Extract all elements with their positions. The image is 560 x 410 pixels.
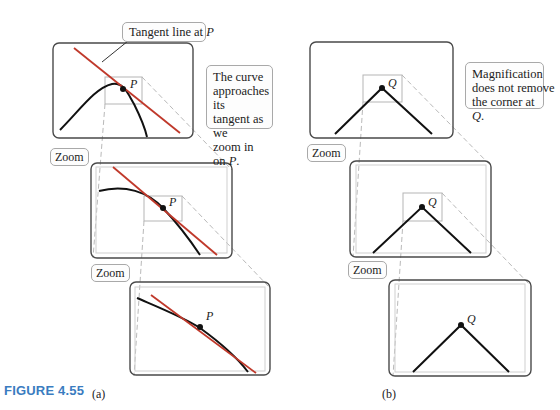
callout-line: approaches its	[213, 84, 266, 112]
zoom-level-3-frame: Q	[389, 280, 531, 376]
zoom-guide-line	[93, 104, 105, 258]
leader-line	[102, 41, 128, 62]
zoom-level-3-frame: P	[130, 282, 270, 375]
zoom-level-1-frame: P	[53, 41, 193, 138]
zoom-level-2-frame: Q	[350, 161, 491, 257]
point-p-dot	[120, 86, 126, 92]
corner-curve	[373, 207, 471, 253]
tangent-label-point: P	[206, 25, 214, 39]
callout-line: tangent as we	[213, 112, 266, 140]
callout-suffix: .	[481, 109, 484, 123]
tangent-line-label: Tangent line at P	[122, 22, 206, 42]
zoom-level-1-frame: Q	[310, 42, 453, 138]
callout-line: The curve	[213, 70, 266, 84]
point-q-label: Q	[428, 195, 437, 209]
magnification-callout: Magnification does not remove the corner…	[465, 62, 544, 109]
zoom-guide-line	[182, 196, 270, 288]
point-p-dot	[197, 324, 203, 330]
zoom-level-2-frame: P	[91, 163, 232, 258]
point-q-dot	[379, 85, 385, 91]
point-p-label: P	[205, 309, 214, 323]
curve-line	[137, 298, 248, 372]
zoom-label-b2: Zoom	[348, 261, 387, 279]
callout-line: the corner at	[472, 95, 534, 109]
tangent-line	[74, 48, 180, 133]
zoom-label-a1: Zoom	[50, 148, 89, 166]
corner-curve	[413, 325, 509, 372]
tangent-label-text: Tangent line at	[129, 25, 206, 39]
point-p-label: P	[129, 77, 138, 91]
callout-suffix: .	[236, 154, 239, 168]
curve-approaches-callout: The curve approaches its tangent as we z…	[206, 65, 273, 129]
point-p-dot	[160, 205, 166, 211]
panel-b-sublabel: (b)	[382, 387, 396, 402]
figure-caption: FIGURE 4.55	[4, 383, 84, 398]
point-p-label: P	[168, 195, 177, 209]
callout-line: Magnification	[472, 67, 537, 81]
corner-curve	[335, 88, 432, 134]
callout-line: does not remove	[472, 81, 537, 95]
zoom-guide-line	[353, 102, 363, 257]
zoom-label-b1: Zoom	[307, 144, 346, 162]
zoom-label-a2: Zoom	[91, 264, 130, 282]
tangent-line	[151, 295, 256, 373]
point-q-dot	[419, 204, 425, 210]
point-q-label: Q	[467, 312, 476, 326]
panel-a-sublabel: (a)	[92, 387, 105, 402]
point-q-label: Q	[388, 76, 397, 90]
point-q-dot	[458, 322, 464, 328]
callout-point: Q	[472, 109, 481, 123]
tangent-line	[113, 167, 217, 255]
